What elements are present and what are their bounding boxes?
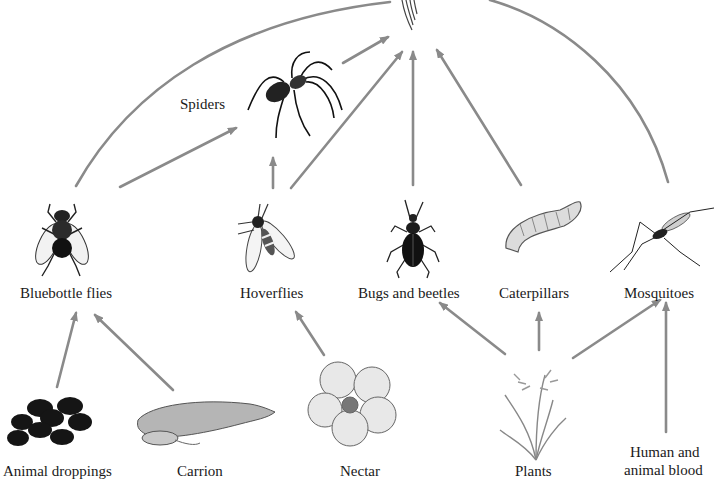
label-mosquitoes: Mosquitoes bbox=[624, 285, 694, 302]
label-blood-line2: animal blood bbox=[624, 462, 703, 479]
label-caterpillars: Caterpillars bbox=[499, 285, 569, 302]
top-bird-wing-icon bbox=[402, 0, 417, 30]
caterpillar-icon bbox=[506, 202, 581, 252]
arrow-plants-to-bugs bbox=[440, 303, 505, 354]
bluebottle-fly-icon bbox=[31, 204, 94, 276]
arrow-droppings-to-bluebottle bbox=[57, 313, 76, 387]
label-nectar: Nectar bbox=[340, 463, 380, 479]
beetle-icon bbox=[387, 200, 439, 278]
hoverfly-icon bbox=[238, 204, 299, 273]
food-web-arrows bbox=[0, 0, 714, 479]
label-bluebottle-flies: Bluebottle flies bbox=[20, 285, 112, 302]
nectar-flower-icon bbox=[308, 362, 396, 446]
label-spiders: Spiders bbox=[180, 96, 225, 113]
plants-grass-icon bbox=[500, 370, 566, 460]
mosquito-icon bbox=[610, 208, 714, 272]
arrow-plants-to-mosquitoes bbox=[573, 300, 660, 358]
label-carrion: Carrion bbox=[177, 463, 223, 479]
spider-icon bbox=[248, 52, 342, 138]
label-blood-line1: Human and bbox=[630, 444, 700, 461]
animal-droppings-icon bbox=[7, 397, 92, 446]
arrow-hoverflies-to-top bbox=[291, 52, 402, 188]
arrow-bluebottle-to-top bbox=[76, 2, 390, 186]
label-hoverflies: Hoverflies bbox=[240, 285, 303, 302]
arrow-spiders-to-top bbox=[343, 37, 388, 63]
label-animal-droppings: Animal droppings bbox=[3, 463, 112, 479]
arrow-nectar-to-hoverflies bbox=[296, 312, 324, 355]
arrow-carrion-to-bluebottle bbox=[95, 315, 173, 390]
arrow-caterpillars-to-top bbox=[437, 50, 521, 185]
carrion-rabbit-icon bbox=[138, 402, 276, 445]
arrow-bluebottle-to-spiders bbox=[120, 128, 236, 187]
label-plants: Plants bbox=[515, 463, 552, 479]
arrow-mosquitoes-to-top bbox=[490, 0, 668, 182]
label-bugs-and-beetles: Bugs and beetles bbox=[358, 285, 460, 302]
